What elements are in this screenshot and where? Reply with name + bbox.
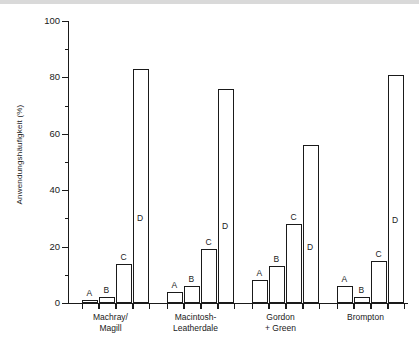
category-label-4: Brompton xyxy=(309,312,419,323)
x-tick-g3-c-l xyxy=(286,303,287,309)
y-minor-tick-10 xyxy=(65,275,69,276)
y-tick-20 xyxy=(62,247,69,248)
x-tick-g4-b-l xyxy=(354,303,355,309)
y-tick-label-40: 40 xyxy=(49,185,60,195)
bar-a-group-4 xyxy=(337,286,353,303)
y-tick-0 xyxy=(62,303,69,304)
x-tick-g1-b-l xyxy=(99,303,100,309)
x-tick-g2-a-l xyxy=(167,303,168,309)
bar-b-group-3 xyxy=(269,266,285,303)
bar-letter-c-group-4: C xyxy=(376,250,382,259)
bar-letter-d-group-1: D xyxy=(137,214,143,223)
x-tick-g4-a-l xyxy=(337,303,338,309)
y-tick-label-0: 0 xyxy=(55,298,60,308)
bar-letter-d-group-3: D xyxy=(307,243,313,252)
y-tick-60 xyxy=(62,134,69,135)
bar-a-group-3 xyxy=(252,280,268,303)
y-tick-label-60: 60 xyxy=(49,129,60,139)
bar-c-group-1 xyxy=(116,264,132,303)
bar-letter-a-group-3: A xyxy=(257,269,263,278)
x-tick-g1-d-r xyxy=(149,303,150,309)
bar-letter-d-group-4: D xyxy=(392,216,398,225)
x-tick-g1-a-l xyxy=(82,303,83,309)
x-tick-g4-d-r xyxy=(404,303,405,309)
y-minor-tick-30 xyxy=(65,218,69,219)
y-tick-40 xyxy=(62,190,69,191)
y-axis-title: Anwendungshäufigkeit (%) xyxy=(15,70,24,240)
category-label-4-line-1: Brompton xyxy=(309,312,419,323)
bar-b-group-4 xyxy=(354,297,370,303)
x-tick-g2-d-l xyxy=(218,303,219,309)
y-minor-tick-70 xyxy=(65,106,69,107)
bar-letter-b-group-4: B xyxy=(359,286,365,295)
bar-c-group-2 xyxy=(201,249,217,303)
bar-b-group-2 xyxy=(184,286,200,303)
bar-c-group-4 xyxy=(371,261,387,303)
y-tick-80 xyxy=(62,77,69,78)
category-label-3-line-2: + Green xyxy=(224,323,337,334)
bar-letter-a-group-4: A xyxy=(342,275,348,284)
bar-b-group-1 xyxy=(99,297,115,303)
x-tick-g2-d-r xyxy=(234,303,235,309)
bar-a-group-1 xyxy=(82,300,98,303)
x-tick-g1-c-l xyxy=(116,303,117,309)
bar-letter-c-group-2: C xyxy=(206,238,212,247)
bar-letter-b-group-2: B xyxy=(189,275,195,284)
y-tick-label-100: 100 xyxy=(44,16,60,26)
x-tick-g4-d-l xyxy=(388,303,389,309)
bar-letter-a-group-2: A xyxy=(172,281,178,290)
x-tick-g3-a-l xyxy=(252,303,253,309)
bar-letter-b-group-3: B xyxy=(274,255,280,264)
y-tick-label-20: 20 xyxy=(49,242,60,252)
y-minor-tick-90 xyxy=(65,49,69,50)
bar-letter-c-group-3: C xyxy=(291,213,297,222)
y-tick-100 xyxy=(62,21,69,22)
bar-d-group-2 xyxy=(218,89,234,303)
bar-letter-a-group-1: A xyxy=(87,289,93,298)
bar-a-group-2 xyxy=(167,292,183,303)
x-tick-g1-d-l xyxy=(133,303,134,309)
bar-d-group-4 xyxy=(388,75,404,303)
x-tick-g3-d-l xyxy=(303,303,304,309)
x-tick-g2-b-l xyxy=(184,303,185,309)
x-tick-g4-c-l xyxy=(371,303,372,309)
bar-c-group-3 xyxy=(286,224,302,303)
x-tick-g3-d-r xyxy=(319,303,320,309)
bar-letter-b-group-1: B xyxy=(104,286,110,295)
bar-letter-c-group-1: C xyxy=(121,253,127,262)
y-tick-label-80: 80 xyxy=(49,73,60,83)
bar-d-group-3 xyxy=(303,145,319,303)
x-tick-g2-c-l xyxy=(201,303,202,309)
bar-d-group-1 xyxy=(133,69,149,303)
bar-chart-figure: Anwendungshäufigkeit (%) 020406080100 AB… xyxy=(0,0,419,350)
plot-area: 020406080100 ABCDABCDABCDABCD xyxy=(68,21,408,303)
x-axis-line xyxy=(68,303,408,304)
bar-letter-d-group-2: D xyxy=(222,222,228,231)
y-minor-tick-50 xyxy=(65,162,69,163)
x-tick-g3-b-l xyxy=(269,303,270,309)
